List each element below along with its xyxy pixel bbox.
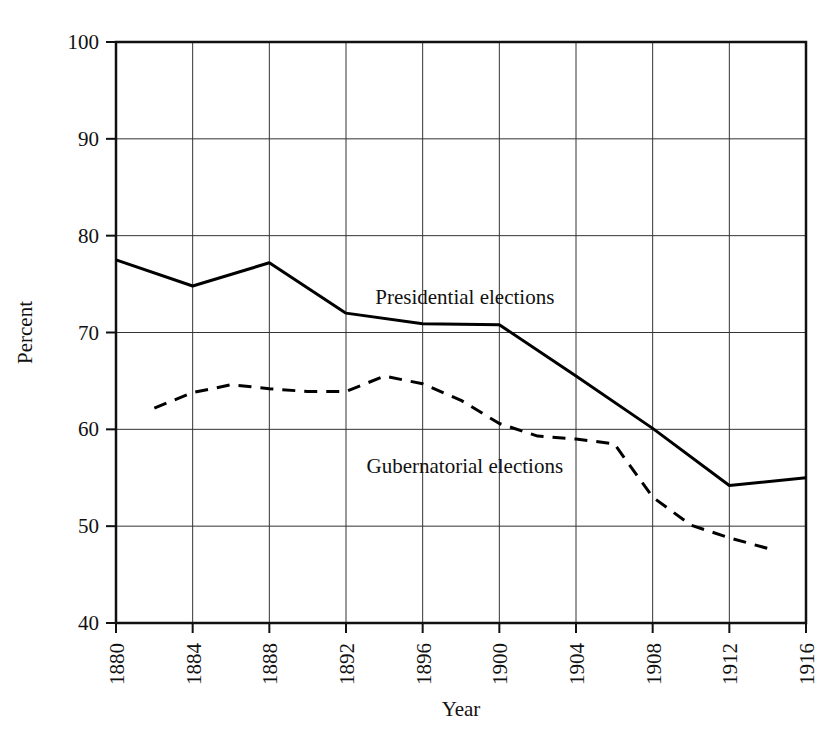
y-tick-label: 40 bbox=[78, 611, 99, 635]
x-tick-label: 1888 bbox=[258, 643, 282, 685]
x-tick-label: 1900 bbox=[488, 643, 512, 685]
x-tick-label: 1904 bbox=[565, 643, 589, 686]
y-tick-label: 80 bbox=[78, 224, 99, 248]
x-tick-label: 1912 bbox=[718, 643, 742, 685]
y-tick-label: 50 bbox=[78, 514, 99, 538]
y-tick-label: 60 bbox=[78, 417, 99, 441]
x-tick-label: 1892 bbox=[335, 643, 359, 685]
x-tick-label: 1916 bbox=[795, 643, 819, 685]
series-annotations: Presidential electionsGubernatorial elec… bbox=[367, 285, 564, 477]
x-tick-label: 1880 bbox=[105, 643, 129, 685]
x-tick-label: 1884 bbox=[182, 643, 206, 686]
x-tick-label: 1908 bbox=[642, 643, 666, 685]
grid-lines bbox=[116, 42, 806, 623]
axis-ticks bbox=[106, 42, 806, 633]
series-annotation-label: Presidential elections bbox=[375, 285, 554, 309]
x-axis-title: Year bbox=[442, 697, 481, 721]
chart-container: 405060708090100 188018841888189218961900… bbox=[0, 0, 836, 744]
x-axis-tick-labels: 1880188418881892189619001904190819121916 bbox=[105, 643, 819, 686]
line-chart: 405060708090100 188018841888189218961900… bbox=[0, 0, 836, 744]
y-tick-label: 100 bbox=[68, 30, 100, 54]
series-annotation-label: Gubernatorial elections bbox=[367, 454, 564, 478]
y-tick-label: 70 bbox=[78, 321, 99, 345]
y-axis-tick-labels: 405060708090100 bbox=[68, 30, 100, 635]
y-tick-label: 90 bbox=[78, 127, 99, 151]
y-axis-title: Percent bbox=[13, 301, 37, 364]
x-tick-label: 1896 bbox=[412, 643, 436, 685]
